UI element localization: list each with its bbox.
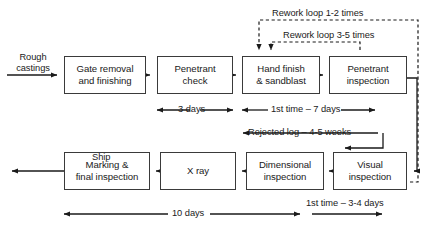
box-hand-finish-sandblast[interactable]: Hand finish & sandblast — [242, 56, 320, 94]
box-label: Penetrant inspection — [347, 63, 390, 86]
label-rework-loop-3-5: Rework loop 3-5 times — [283, 30, 374, 41]
label-10-days: 10 days — [172, 208, 204, 219]
rework-loop-3-5-path — [271, 42, 360, 50]
box-label: X ray — [187, 165, 209, 177]
label-1st-time-7-days: 1st time – 7 days — [271, 104, 340, 115]
box-visual-inspection[interactable]: Visual inspection — [333, 152, 407, 190]
box-dimensional-inspection[interactable]: Dimensional inspection — [246, 152, 324, 190]
process-flow-diagram: Gate removal and finishing Penetrant che… — [0, 0, 425, 241]
box-label: Penetrant check — [174, 63, 215, 86]
box-label: Hand finish & sandblast — [256, 63, 306, 86]
box-label: Dimensional inspection — [259, 159, 311, 182]
box-gate-removal[interactable]: Gate removal and finishing — [64, 56, 146, 94]
label-1st-time-3-4-days: 1st time – 3-4 days — [306, 198, 384, 209]
box-label: Visual inspection — [349, 159, 392, 182]
box-penetrant-inspection[interactable]: Penetrant inspection — [329, 56, 407, 94]
label-rejected-log: Rejected log – 4-5 weeks — [248, 127, 351, 138]
input-label-rough-castings: Rough castings — [7, 52, 59, 74]
connector-penetrant-to-visual — [407, 78, 417, 171]
output-label-ship: Ship — [92, 152, 110, 163]
box-label: Gate removal and finishing — [77, 63, 134, 86]
label-rework-loop-1-2: Rework loop 1-2 times — [272, 8, 363, 19]
box-x-ray[interactable]: X ray — [160, 152, 236, 190]
label-3-days: 3 days — [178, 104, 205, 115]
box-penetrant-check[interactable]: Penetrant check — [157, 56, 233, 94]
